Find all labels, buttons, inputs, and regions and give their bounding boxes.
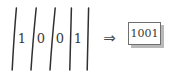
input-digit-3: 1 xyxy=(73,30,83,47)
input-digit-0: 1 xyxy=(17,30,27,47)
implies-arrow-icon: ⇒ xyxy=(100,29,119,47)
input-digit-1: 0 xyxy=(36,30,46,47)
result-box: 1001 xyxy=(128,22,161,45)
input-digit-2: 0 xyxy=(55,30,65,47)
separator-bar-5 xyxy=(83,8,94,70)
figure-canvas: 1 0 0 1 ⇒ 1001 xyxy=(0,0,170,76)
result-value: 1001 xyxy=(129,23,160,44)
